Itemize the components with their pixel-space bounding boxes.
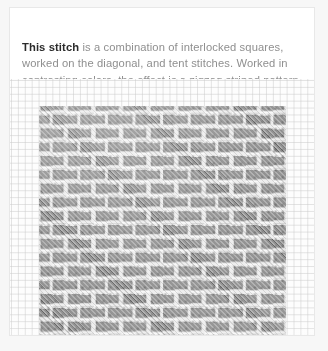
stitched-area (39, 106, 286, 336)
stitch-description-lead: This stitch (22, 41, 79, 53)
interlocked-squares-svg (39, 106, 286, 336)
stitch-info-card: This stitch is a combination of interloc… (9, 7, 315, 336)
page-root: This stitch is a combination of interloc… (0, 0, 328, 351)
interlocked-squares-light-thread (39, 106, 286, 336)
needlepoint-sample-image (10, 79, 314, 336)
